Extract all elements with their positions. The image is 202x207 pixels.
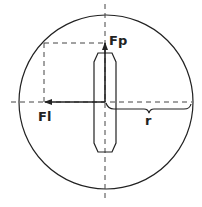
resultant-rectangle bbox=[44, 43, 105, 102]
force-diagram: Fp Fl r bbox=[0, 0, 202, 207]
radius-label: r bbox=[145, 113, 152, 128]
fl-label: Fl bbox=[38, 109, 51, 124]
radius-brace bbox=[106, 103, 191, 113]
fp-label: Fp bbox=[109, 33, 127, 48]
